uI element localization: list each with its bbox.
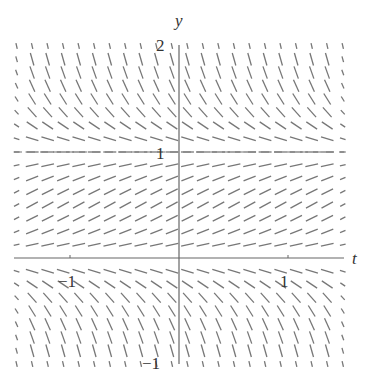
- slope-segment: [166, 269, 178, 273]
- slope-segment: [14, 138, 20, 140]
- slope-segment: [290, 243, 303, 246]
- slope-segment: [244, 202, 255, 208]
- slope-segment: [166, 189, 178, 195]
- slope-segment: [311, 43, 312, 49]
- slope-segment: [230, 293, 239, 303]
- slope-segment: [59, 107, 68, 117]
- slope-segment: [249, 361, 250, 367]
- slope-segment: [305, 164, 318, 167]
- slope-segment: [60, 80, 65, 92]
- slope-segment: [119, 176, 131, 181]
- slope-segment: [166, 229, 178, 234]
- slope-segment: [150, 164, 163, 167]
- t-tick-label-neg1: −1: [58, 273, 76, 290]
- slope-segment: [296, 361, 297, 367]
- slope-segment: [63, 361, 64, 367]
- slope-segment: [73, 215, 85, 221]
- slope-segment: [77, 344, 81, 357]
- slope-segment: [181, 137, 193, 141]
- slope-segment: [321, 176, 333, 181]
- slope-segment: [307, 107, 316, 117]
- slope-segment: [42, 215, 54, 221]
- slope-segment: [305, 243, 318, 246]
- slope-segment: [275, 176, 287, 181]
- slope-segment: [184, 93, 191, 104]
- slope-segment: [125, 361, 126, 367]
- slope-segment: [135, 176, 147, 181]
- slope-segment: [105, 293, 114, 303]
- slope-segment: [73, 176, 85, 181]
- slope-segment: [294, 53, 298, 66]
- slope-segment: [231, 318, 236, 330]
- slope-segment: [76, 80, 81, 92]
- slope-segment: [200, 93, 207, 104]
- slope-segment: [14, 283, 19, 286]
- slope-segment: [14, 190, 19, 193]
- slope-segment: [216, 66, 220, 78]
- slope-segment: [104, 215, 116, 221]
- slope-segment: [306, 281, 317, 288]
- slope-segment: [29, 305, 36, 316]
- slope-segment: [322, 122, 333, 129]
- slope-segment: [327, 43, 328, 49]
- slope-segment: [27, 281, 38, 288]
- slope-segment: [151, 202, 162, 208]
- slope-segment: [232, 53, 236, 66]
- slope-segment: [57, 215, 69, 221]
- slope-segment: [14, 204, 19, 207]
- slope-segment: [215, 305, 222, 316]
- slope-segment: [26, 137, 38, 141]
- slope-segment: [244, 122, 255, 129]
- slope-segment: [217, 344, 221, 357]
- slope-segment: [184, 305, 191, 316]
- slope-segment: [262, 305, 269, 316]
- slope-segment: [292, 107, 301, 117]
- slope-segment: [119, 229, 131, 234]
- slope-segment: [45, 80, 50, 92]
- slope-segment: [305, 269, 317, 273]
- slope-segment: [290, 189, 302, 195]
- slope-segment: [342, 83, 344, 88]
- slope-segment: [202, 361, 203, 367]
- slope-segment: [183, 293, 192, 303]
- slope-segment: [293, 318, 298, 330]
- slope-segment: [212, 176, 224, 181]
- slope-segment: [170, 53, 174, 66]
- slope-segment: [213, 189, 225, 195]
- slope-segment: [293, 93, 300, 104]
- slope-segment: [181, 229, 193, 234]
- slope-segment: [274, 164, 287, 167]
- slope-segment: [61, 53, 65, 66]
- slope-segment: [108, 344, 112, 357]
- slope-segment: [182, 202, 193, 208]
- slope-segment: [325, 331, 329, 343]
- slope-segment: [88, 269, 100, 273]
- slope-segment: [103, 164, 116, 167]
- slope-segment: [15, 309, 18, 314]
- slope-segment: [44, 93, 51, 104]
- slope-segment: [212, 269, 224, 273]
- slope-segment: [16, 43, 17, 49]
- slope-segment: [41, 164, 54, 167]
- slope-segment: [232, 344, 236, 357]
- slope-segment: [228, 202, 239, 208]
- slope-segment: [43, 293, 52, 303]
- slope-segment: [249, 43, 250, 49]
- slope-segment: [152, 107, 161, 117]
- slope-segment: [308, 93, 315, 104]
- slope-segment: [277, 305, 284, 316]
- slope-segment: [57, 189, 69, 195]
- slope-segment: [29, 80, 34, 92]
- slope-segment: [181, 243, 194, 246]
- slope-segment: [30, 66, 34, 78]
- slope-segment: [154, 66, 158, 78]
- slope-segment: [244, 281, 255, 288]
- slope-segment: [92, 344, 96, 357]
- slope-segment: [278, 318, 283, 330]
- slope-segment: [290, 176, 302, 181]
- slope-segment: [26, 243, 39, 246]
- slope-segment: [230, 107, 239, 117]
- slope-segment: [125, 43, 126, 49]
- slope-segment: [308, 305, 315, 316]
- slope-segment: [201, 331, 205, 343]
